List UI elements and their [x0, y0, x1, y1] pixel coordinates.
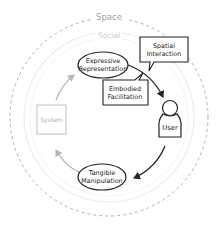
svg-text:Representation: Representation: [79, 65, 128, 73]
svg-text:Interaction: Interaction: [147, 50, 182, 58]
node-expressive-representation: Expressive Representation: [78, 52, 128, 78]
space-label: Space: [96, 12, 122, 22]
svg-text:Tangible: Tangible: [88, 169, 115, 177]
callout-spatial-interaction: Spatial Interaction: [140, 37, 188, 71]
svg-text:Spatial: Spatial: [153, 42, 175, 50]
svg-text:Manipulation: Manipulation: [81, 177, 122, 185]
arrow-user-to-tangible: [134, 146, 165, 178]
arrow-tangible-to-system: [56, 150, 79, 172]
node-system: System: [37, 105, 66, 134]
svg-text:Facilitation: Facilitation: [108, 93, 143, 101]
user-head-icon: [163, 101, 178, 116]
svg-text:Embodied: Embodied: [109, 85, 141, 93]
svg-text:Expressive: Expressive: [86, 57, 121, 65]
diagram-canvas: Space Social Expressive Representation S…: [0, 0, 219, 230]
arrow-system-to-expressive: [56, 75, 74, 100]
node-tangible-manipulation: Tangible Manipulation: [78, 164, 126, 190]
node-user: User: [159, 101, 181, 138]
svg-text:User: User: [162, 124, 178, 132]
svg-text:System: System: [40, 116, 63, 124]
social-label: Social: [98, 31, 120, 40]
